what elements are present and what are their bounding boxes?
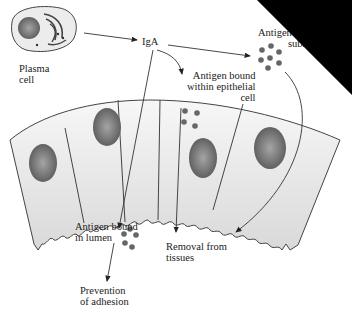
antigen-epithelial-label: Antigen bound within epithelial cell	[187, 70, 256, 103]
plasma-cell	[12, 7, 77, 52]
plasma-cell-label-line2: cell	[19, 74, 49, 85]
arrow-lumen-to-prevention	[107, 243, 114, 281]
prevention-line2: of adhesion	[80, 296, 129, 307]
plasma-nucleus	[18, 17, 40, 39]
antigen-lumen-line1: Antigen bound	[75, 221, 138, 232]
antigen-epithelial-line2: within epithelial	[187, 81, 256, 92]
arrow-iga-to-submucosa	[168, 45, 250, 56]
epithelium	[10, 100, 340, 250]
nucleus-1	[29, 144, 57, 182]
removal-line2: tissues	[166, 252, 227, 263]
arrow-plasma-to-iga	[84, 33, 137, 40]
plasma-cell-label: Plasma cell	[19, 63, 49, 85]
antigen-lumen-label: Antigen bound in lumen	[75, 221, 138, 243]
removal-line1: Removal from	[166, 241, 227, 252]
prevention-line1: Prevention	[80, 285, 129, 296]
plasma-cell-label-line1: Plasma	[19, 63, 49, 74]
antigen-lumen-line2: in lumen	[75, 232, 138, 243]
black-corner-mask	[257, 0, 352, 95]
antigen-epithelial-line1: Antigen bound	[187, 70, 256, 81]
nucleus-4	[254, 127, 286, 169]
nucleus-2	[93, 108, 121, 146]
nucleus-3	[189, 138, 217, 178]
antigen-epithelial-line3: cell	[187, 92, 256, 103]
prevention-label: Prevention of adhesion	[80, 285, 129, 307]
removal-label: Removal from tissues	[166, 241, 227, 263]
iga-label: IgA	[142, 36, 158, 47]
arrow-iga-to-epithelial	[157, 50, 182, 74]
